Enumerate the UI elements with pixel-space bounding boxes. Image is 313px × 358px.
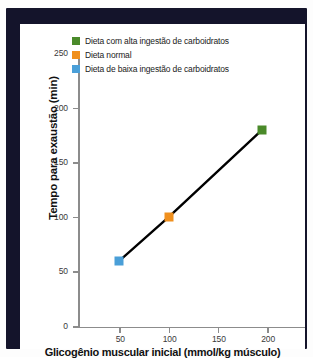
legend-swatch-green-icon xyxy=(72,37,80,45)
legend-swatch-blue-icon xyxy=(72,65,80,73)
x-tick-200 xyxy=(267,328,269,333)
legend-item-normal: Dieta normal xyxy=(72,48,229,61)
x-ticklabel-100: 100 xyxy=(153,334,187,344)
y-ticklabel-0: 0 xyxy=(28,321,68,331)
y-tick-50 xyxy=(73,271,78,273)
x-ticklabel-200: 200 xyxy=(251,334,285,344)
y-axis-line xyxy=(78,52,80,328)
x-tick-150 xyxy=(218,328,220,333)
legend-item-low-carb: Dieta de baixa ingestão de carboidratos xyxy=(72,62,229,75)
legend-swatch-orange-icon xyxy=(72,51,80,59)
legend-label-normal: Dieta normal xyxy=(85,50,131,60)
y-tick-200 xyxy=(73,108,78,110)
legend: Dieta com alta ingestão de carboidratos … xyxy=(72,34,229,76)
x-axis-label: Glicogênio muscular inicial (mmol/kg mús… xyxy=(20,346,305,358)
data-point-normal xyxy=(164,213,173,222)
x-axis-line xyxy=(78,327,305,329)
legend-item-high-carb: Dieta com alta ingestão de carboidratos xyxy=(72,34,229,47)
legend-label-low-carb: Dieta de baixa ingestão de carboidratos xyxy=(85,64,229,74)
figure-frame: 250 200 150 100 50 0 50 100 150 200 Temp… xyxy=(6,8,307,349)
x-tick-100 xyxy=(169,328,171,333)
y-axis-label: Tempo para exaustão (min) xyxy=(47,48,59,248)
x-ticklabel-50: 50 xyxy=(103,334,137,344)
y-tick-150 xyxy=(73,162,78,164)
y-tick-0 xyxy=(73,326,78,328)
y-ticklabel-50: 50 xyxy=(28,266,68,276)
x-tick-50 xyxy=(119,328,121,333)
plot-canvas: 250 200 150 100 50 0 50 100 150 200 Temp… xyxy=(20,24,305,349)
y-tick-100 xyxy=(73,217,78,219)
data-point-high-carb xyxy=(258,125,267,134)
data-point-low-carb xyxy=(115,256,124,265)
legend-label-high-carb: Dieta com alta ingestão de carboidratos xyxy=(85,36,229,46)
x-ticklabel-150: 150 xyxy=(202,334,236,344)
